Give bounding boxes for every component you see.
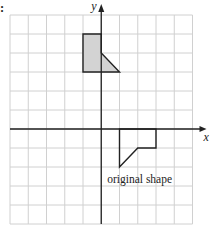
question-marker: : xyxy=(0,2,4,15)
x-axis-label: x xyxy=(204,130,209,145)
y-axis-label: y xyxy=(91,0,96,14)
original-shape-label: original shape xyxy=(107,173,172,185)
y-axis-arrow-icon xyxy=(98,4,104,12)
coordinate-plane: : y x original shape xyxy=(0,0,211,230)
grid-plot xyxy=(0,0,211,230)
